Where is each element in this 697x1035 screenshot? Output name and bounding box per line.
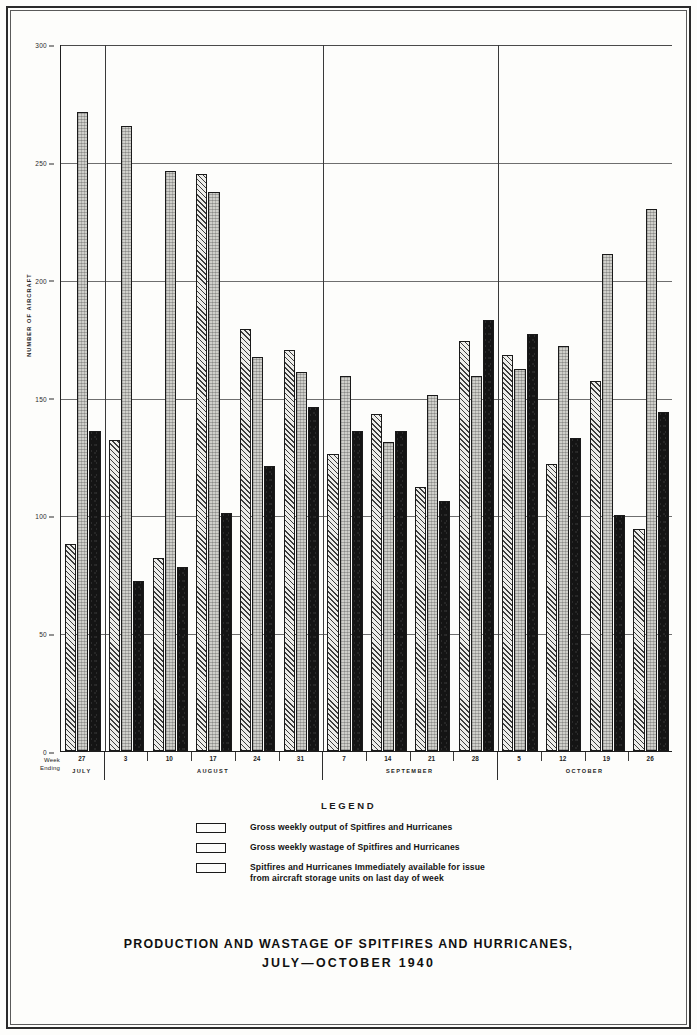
legend-entry-line2-2: from aircraft storage units on last day …	[250, 873, 485, 884]
bar-available-week-7	[340, 376, 351, 751]
x-tick-12	[585, 752, 586, 761]
x-tick-label-14: 14	[384, 755, 391, 762]
legend-entry-line1-2: Spitfires and Hurricanes Immediately ava…	[250, 862, 485, 873]
x-tick-label-7: 7	[342, 755, 346, 762]
x-tick-label-26: 26	[647, 755, 654, 762]
bar-group-week-7	[323, 45, 367, 751]
bar-group-week-12	[542, 45, 586, 751]
x-tick-3	[191, 752, 192, 761]
bar-group-week-21	[411, 45, 455, 751]
bar-wastage-week-17	[196, 174, 207, 751]
bar-group-week-24	[236, 45, 280, 751]
bar-wastage-week-10	[153, 558, 164, 751]
bar-group-week-17	[192, 45, 236, 751]
bar-wastage-week-14	[371, 414, 382, 751]
x-tick-label-27: 27	[78, 755, 85, 762]
y-tick-label-100: 100	[8, 513, 54, 520]
x-tick-label-28: 28	[472, 755, 479, 762]
bar-group-week-27	[61, 45, 105, 751]
legend-title: LEGEND	[0, 800, 697, 811]
chart-title-line1: PRODUCTION AND WASTAGE OF SPITFIRES AND …	[0, 935, 697, 954]
legend-entry-text-2: Spitfires and Hurricanes Immediately ava…	[250, 862, 485, 883]
bar-group-week-10	[148, 45, 192, 751]
bar-available-week-12	[558, 346, 569, 751]
x-tick-2	[147, 752, 148, 761]
month-label-august: AUGUST	[197, 768, 229, 774]
chart-page: NUMBER OF AIRCRAFT 050100150200250300 We…	[0, 0, 697, 1035]
chart-title-line2: JULY—OCTOBER 1940	[0, 954, 697, 973]
bar-available-week-14	[383, 442, 394, 751]
y-tick-label-150: 150	[8, 395, 54, 402]
legend-entry-2: Spitfires and Hurricanes Immediately ava…	[0, 862, 697, 883]
y-axis-title: NUMBER OF AIRCRAFT	[26, 250, 32, 380]
month-divider-september	[322, 752, 323, 780]
month-label-september: SEPTEMBER	[386, 768, 433, 774]
week-ending-label: Week Ending	[26, 756, 60, 772]
bar-available-week-24	[252, 357, 263, 751]
chart-title: PRODUCTION AND WASTAGE OF SPITFIRES AND …	[0, 935, 697, 973]
x-tick-label-3: 3	[124, 755, 128, 762]
bar-wastage-week-26	[633, 529, 644, 751]
bar-group-week-3	[105, 45, 149, 751]
bar-output-week-5	[527, 334, 538, 751]
x-tick-8	[410, 752, 411, 761]
month-label-october: OCTOBER	[566, 768, 604, 774]
x-tick-label-17: 17	[209, 755, 216, 762]
y-tick-label-200: 200	[8, 277, 54, 284]
bar-wastage-week-5	[502, 355, 513, 751]
bar-output-week-17	[221, 513, 232, 751]
bar-available-week-28	[471, 376, 482, 751]
bar-wastage-week-21	[415, 487, 426, 751]
bar-output-week-3	[133, 581, 144, 751]
bar-output-week-24	[264, 466, 275, 751]
bar-wastage-week-7	[327, 454, 338, 751]
legend-entry-text-1: Gross weekly wastage of Spitfires and Hu…	[250, 842, 460, 853]
x-tick-5	[279, 752, 280, 761]
legend-entry-line1-0: Gross weekly output of Spitfires and Hur…	[250, 822, 452, 833]
bar-output-week-14	[395, 431, 406, 752]
bar-wastage-week-28	[459, 341, 470, 751]
bar-output-week-12	[570, 438, 581, 751]
x-tick-4	[235, 752, 236, 761]
week-ending-line1: Week	[26, 756, 60, 764]
plot-area	[60, 45, 672, 752]
month-divider-august	[104, 752, 105, 780]
x-tick-label-31: 31	[297, 755, 304, 762]
solid-black-swatch	[196, 823, 226, 833]
x-tick-label-21: 21	[428, 755, 435, 762]
x-tick-7	[366, 752, 367, 761]
y-tick-label-250: 250	[8, 159, 54, 166]
bar-available-week-17	[208, 192, 219, 751]
stipple-swatch	[196, 863, 226, 873]
x-tick-label-24: 24	[253, 755, 260, 762]
legend: LEGEND Gross weekly output of Spitfires …	[0, 800, 697, 892]
bar-wastage-week-27	[65, 544, 76, 751]
bar-available-week-27	[77, 112, 88, 751]
week-ending-line2: Ending	[26, 764, 60, 772]
bar-output-week-31	[308, 407, 319, 751]
bar-available-week-19	[602, 254, 613, 751]
bar-wastage-week-19	[590, 381, 601, 751]
bar-group-week-28	[454, 45, 498, 751]
bar-output-week-26	[658, 412, 669, 751]
month-label-july: JULY	[72, 768, 91, 774]
x-tick-label-10: 10	[166, 755, 173, 762]
bar-available-week-10	[165, 171, 176, 751]
bar-wastage-week-12	[546, 464, 557, 752]
bar-available-week-31	[296, 372, 307, 751]
bar-available-week-26	[646, 209, 657, 751]
month-divider-october	[497, 752, 498, 780]
bar-group-week-19	[586, 45, 630, 751]
x-tick-label-19: 19	[603, 755, 610, 762]
bar-wastage-week-31	[284, 350, 295, 751]
y-tick-label-50: 50	[8, 631, 54, 638]
bar-available-week-21	[427, 395, 438, 751]
bar-group-week-14	[367, 45, 411, 751]
bar-output-week-21	[439, 501, 450, 751]
hatched-swatch	[196, 843, 226, 853]
legend-entry-0: Gross weekly output of Spitfires and Hur…	[0, 822, 697, 833]
y-tick-label-300: 300	[8, 42, 54, 49]
y-tick-label-0: 0	[8, 749, 54, 756]
bar-group-week-5	[498, 45, 542, 751]
bar-wastage-week-24	[240, 329, 251, 751]
